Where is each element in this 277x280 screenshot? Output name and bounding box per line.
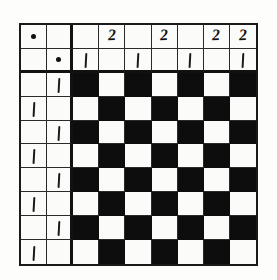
grid-cell-r1-c9[interactable]: 2 [230, 25, 256, 49]
grid-cell-r7-c6[interactable] [152, 168, 178, 192]
grid-cell-r3-c1[interactable] [21, 73, 47, 97]
grid-cell-r1-c5[interactable] [125, 25, 151, 49]
grid-cell-r4-c3[interactable] [73, 97, 99, 121]
grid-cell-r4-c4[interactable] [99, 97, 125, 121]
grid-cell-r1-c7[interactable] [178, 25, 204, 49]
grid-cell-r4-c2[interactable] [47, 97, 73, 121]
grid-cell-r3-c2[interactable] [47, 73, 73, 97]
grid-cell-r4-c7[interactable] [178, 97, 204, 121]
grid-cell-r10-c8[interactable] [204, 240, 230, 264]
grid-cell-r4-c1[interactable] [21, 97, 47, 121]
grid-cell-r10-c3[interactable] [73, 240, 99, 264]
stroke-one-mark-icon [189, 53, 192, 68]
grid-cell-r3-c9[interactable] [230, 73, 256, 97]
grid-cell-r9-c7[interactable] [178, 216, 204, 240]
grid-cell-r2-c7[interactable] [178, 49, 204, 73]
stroke-one-mark-icon [32, 149, 35, 164]
grid-cell-r5-c3[interactable] [73, 121, 99, 145]
grid-cell-r3-c5[interactable] [125, 73, 151, 97]
grid-cell-r8-c4[interactable] [99, 192, 125, 216]
grid-cell-r6-c9[interactable] [230, 144, 256, 168]
grid-cell-r3-c3[interactable] [73, 73, 99, 97]
digit-two-mark: 2 [212, 27, 221, 43]
dot-mark-icon [31, 34, 36, 39]
grid-cell-r5-c4[interactable] [99, 121, 125, 145]
grid-cell-r3-c4[interactable] [99, 73, 125, 97]
grid-cell-r6-c8[interactable] [204, 144, 230, 168]
grid-cell-r10-c9[interactable] [230, 240, 256, 264]
grid-cell-r10-c6[interactable] [152, 240, 178, 264]
grid-cell-r2-c3[interactable] [73, 49, 99, 73]
grid-cell-r7-c1[interactable] [21, 168, 47, 192]
grid-cell-r5-c1[interactable] [21, 121, 47, 145]
grid-cell-r6-c2[interactable] [47, 144, 73, 168]
grid-cell-r8-c6[interactable] [152, 192, 178, 216]
grid-cell-r5-c2[interactable] [47, 121, 73, 145]
grid-cell-r2-c1[interactable] [21, 49, 47, 73]
grid-cell-r2-c6[interactable] [152, 49, 178, 73]
grid-cell-r8-c8[interactable] [204, 192, 230, 216]
grid-cell-r9-c1[interactable] [21, 216, 47, 240]
checkerboard-grid[interactable]: 2222 [21, 25, 256, 264]
grid-cell-r6-c7[interactable] [178, 144, 204, 168]
grid-cell-r10-c5[interactable] [125, 240, 151, 264]
grid-cell-r6-c1[interactable] [21, 144, 47, 168]
stroke-one-mark-icon [57, 221, 60, 236]
grid-cell-r1-c6[interactable]: 2 [152, 25, 178, 49]
grid-cell-r8-c7[interactable] [178, 192, 204, 216]
grid-cell-r3-c7[interactable] [178, 73, 204, 97]
grid-cell-r5-c8[interactable] [204, 121, 230, 145]
stroke-one-mark-icon [57, 125, 60, 140]
grid-cell-r4-c6[interactable] [152, 97, 178, 121]
grid-cell-r6-c6[interactable] [152, 144, 178, 168]
grid-cell-r7-c5[interactable] [125, 168, 151, 192]
grid-cell-r2-c5[interactable] [125, 49, 151, 73]
grid-cell-r9-c9[interactable] [230, 216, 256, 240]
stroke-one-mark-icon [137, 53, 140, 68]
grid-cell-r5-c9[interactable] [230, 121, 256, 145]
stroke-one-mark-icon [32, 102, 35, 117]
grid-cell-r2-c8[interactable] [204, 49, 230, 73]
grid-cell-r9-c2[interactable] [47, 216, 73, 240]
grid-cell-r9-c6[interactable] [152, 216, 178, 240]
grid-cell-r3-c6[interactable] [152, 73, 178, 97]
grid-cell-r2-c9[interactable] [230, 49, 256, 73]
grid-cell-r7-c3[interactable] [73, 168, 99, 192]
grid-cell-r1-c2[interactable] [47, 25, 73, 49]
grid-cell-r1-c4[interactable]: 2 [99, 25, 125, 49]
grid-cell-r8-c3[interactable] [73, 192, 99, 216]
grid-cell-r8-c5[interactable] [125, 192, 151, 216]
grid-cell-r8-c9[interactable] [230, 192, 256, 216]
grid-cell-r5-c6[interactable] [152, 121, 178, 145]
grid-cell-r7-c9[interactable] [230, 168, 256, 192]
grid-cell-r9-c4[interactable] [99, 216, 125, 240]
grid-cell-r3-c8[interactable] [204, 73, 230, 97]
grid-cell-r4-c5[interactable] [125, 97, 151, 121]
grid-cell-r4-c8[interactable] [204, 97, 230, 121]
grid-cell-r2-c4[interactable] [99, 49, 125, 73]
grid-cell-r8-c1[interactable] [21, 192, 47, 216]
grid-cell-r7-c7[interactable] [178, 168, 204, 192]
grid-cell-r7-c4[interactable] [99, 168, 125, 192]
grid-cell-r7-c2[interactable] [47, 168, 73, 192]
grid-cell-r1-c1[interactable] [21, 25, 47, 49]
grid-cell-r2-c2[interactable] [47, 49, 73, 73]
grid-cell-r4-c9[interactable] [230, 97, 256, 121]
grid-cell-r1-c8[interactable]: 2 [204, 25, 230, 49]
grid-cell-r10-c7[interactable] [178, 240, 204, 264]
grid-cell-r9-c8[interactable] [204, 216, 230, 240]
grid-cell-r10-c1[interactable] [21, 240, 47, 264]
grid-cell-r8-c2[interactable] [47, 192, 73, 216]
grid-cell-r7-c8[interactable] [204, 168, 230, 192]
grid-cell-r6-c5[interactable] [125, 144, 151, 168]
grid-cell-r6-c4[interactable] [99, 144, 125, 168]
grid-cell-r1-c3[interactable] [73, 25, 99, 49]
grid-cell-r9-c5[interactable] [125, 216, 151, 240]
grid-cell-r5-c5[interactable] [125, 121, 151, 145]
grid-cell-r10-c2[interactable] [47, 240, 73, 264]
grid-cell-r9-c3[interactable] [73, 216, 99, 240]
stroke-one-mark-icon [57, 173, 60, 188]
grid-cell-r5-c7[interactable] [178, 121, 204, 145]
grid-cell-r10-c4[interactable] [99, 240, 125, 264]
grid-cell-r6-c3[interactable] [73, 144, 99, 168]
